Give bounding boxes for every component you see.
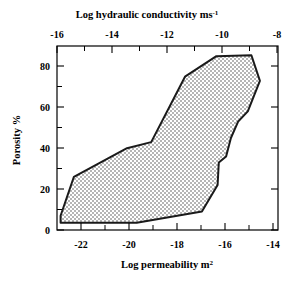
chart-container: Log hydraulic conductivity ms-1 -16 -14 …	[0, 0, 294, 281]
top-tick-label: -14	[105, 29, 118, 40]
x-tick-label: -22	[74, 239, 87, 250]
y-tick-label: 80	[40, 61, 50, 72]
x-tick-label: -20	[122, 239, 135, 250]
top-axis-title: Log hydraulic conductivity ms-1	[76, 9, 219, 21]
top-axis-title-base: Log hydraulic conductivity ms	[76, 9, 213, 20]
top-tick-label: -16	[50, 29, 63, 40]
permeability-porosity-chart: Log hydraulic conductivity ms-1 -16 -14 …	[0, 0, 294, 281]
y-tick-label: 60	[40, 102, 50, 113]
top-axis-tick-labels: -16 -14 -12 -10 -8	[50, 29, 281, 40]
y-tick-label: 40	[40, 143, 50, 154]
top-tick-label: -8	[273, 29, 281, 40]
y-axis-title: Porosity %	[11, 115, 22, 165]
x-tick-label: -16	[218, 239, 231, 250]
bottom-axis-tick-labels: -22 -20 -18 -16 -14	[74, 239, 279, 250]
top-axis-title-superscript: -1	[212, 9, 218, 17]
x-axis-title: Log permeability m2	[121, 259, 214, 271]
x-axis-title-superscript: 2	[210, 259, 214, 267]
top-tick-label: -10	[215, 29, 228, 40]
y-tick-label: 0	[45, 225, 50, 236]
x-tick-label: -14	[266, 239, 279, 250]
top-tick-label: -12	[160, 29, 173, 40]
x-tick-label: -18	[170, 239, 183, 250]
y-axis-tick-labels: 0 20 40 60 80	[40, 61, 50, 236]
x-axis-title-base: Log permeability m	[121, 259, 210, 270]
y-tick-label: 20	[40, 184, 50, 195]
